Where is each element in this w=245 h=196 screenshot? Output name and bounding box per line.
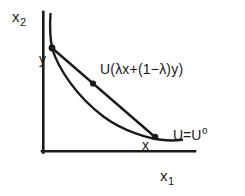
- point-label-x: x: [142, 138, 149, 152]
- convex-combination-label: U(λx+(1−λ)y): [100, 62, 183, 76]
- x-axis-label-base: x: [160, 167, 168, 184]
- utility-level-label: U=Uo: [173, 126, 207, 142]
- utility-level-label-base: U=U: [173, 127, 201, 143]
- point-dot-y: [49, 45, 56, 52]
- y-axis-label-base: x: [12, 8, 20, 25]
- indifference-curve: [50, 14, 182, 140]
- convexity-figure: x2 x1 y x U=Uo U(λx+(1−λ)y): [0, 0, 245, 196]
- x-axis-label: x1: [160, 168, 174, 187]
- point-label-y: y: [39, 52, 46, 66]
- figure-canvas: [0, 0, 245, 196]
- point-dot-convex-combination: [90, 80, 96, 86]
- utility-level-label-superscript: o: [202, 125, 208, 136]
- point-dot-x: [152, 134, 159, 141]
- x-axis-label-subscript: 1: [168, 175, 174, 187]
- y-axis-label-subscript: 2: [20, 16, 26, 28]
- y-axis-label: x2: [12, 9, 26, 28]
